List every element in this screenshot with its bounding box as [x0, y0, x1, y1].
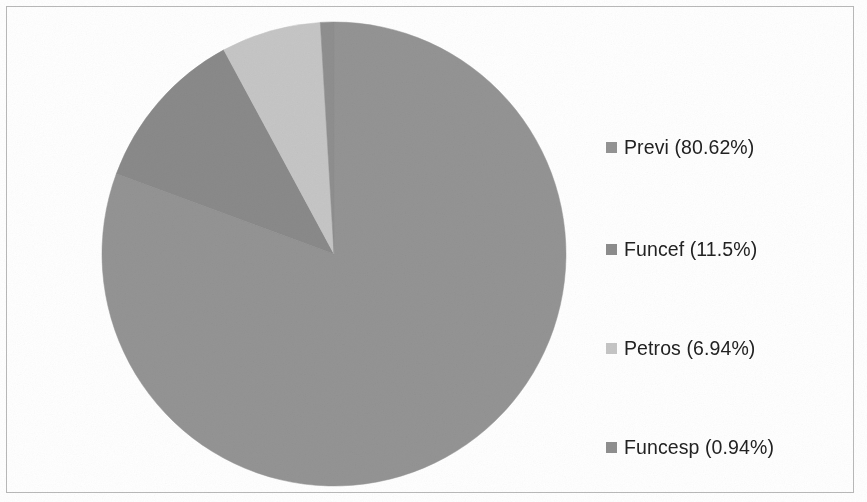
legend-swatch-previ	[606, 142, 617, 153]
legend-label-previ: Previ (80.62%)	[624, 136, 754, 158]
legend-label-petros: Petros (6.94%)	[624, 337, 755, 359]
legend-item-previ[interactable]: Previ (80.62%)	[606, 134, 754, 160]
legend-label-funcesp: Funcesp (0.94%)	[624, 436, 774, 458]
legend-swatch-funcef	[606, 244, 617, 255]
legend-swatch-petros	[606, 343, 617, 354]
legend-item-petros[interactable]: Petros (6.94%)	[606, 335, 755, 361]
pie-slices-group	[102, 22, 566, 486]
pie-chart-figure: Previ (80.62%) Funcef (11.5%) Petros (6.…	[0, 0, 867, 502]
legend-item-funcesp[interactable]: Funcesp (0.94%)	[606, 434, 774, 460]
chart-legend: Previ (80.62%) Funcef (11.5%) Petros (6.…	[606, 18, 856, 488]
legend-label-funcef: Funcef (11.5%)	[624, 238, 757, 260]
legend-swatch-funcesp	[606, 442, 617, 453]
legend-item-funcef[interactable]: Funcef (11.5%)	[606, 236, 757, 262]
